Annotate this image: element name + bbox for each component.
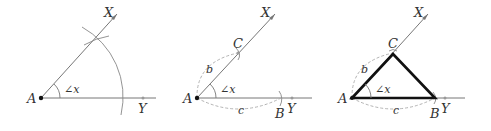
label-x: X [413,5,424,20]
label-angle: ∠x [375,83,391,96]
label-c-vertex: C [388,36,398,51]
point-a [350,96,354,100]
label-b-vertex: B [274,106,285,121]
label-y: Y [441,101,451,116]
panel-step-3: A X Y C B b c ∠x [337,5,465,121]
label-angle: ∠x [220,83,236,96]
label-side-b: b [206,63,213,76]
angle-arc [365,84,371,98]
label-angle: ∠x [64,83,80,96]
label-side-c: c [238,104,244,117]
label-x: X [260,5,271,20]
label-a: A [337,91,347,106]
point-y [444,97,447,100]
label-side-b: b [361,63,368,76]
label-side-c: c [393,104,399,117]
point-a [39,96,43,100]
label-c-vertex: C [233,36,243,51]
compass-arc [82,27,123,115]
point-y [291,97,294,100]
label-y: Y [138,101,148,116]
label-a: A [182,91,192,106]
label-b-vertex: B [429,106,440,121]
triangle-construction-figure: A X Y ∠x A X Y C B b c [0,0,491,131]
point-y [142,97,145,100]
point-a [195,96,199,100]
angle-arc [210,84,216,98]
label-x: X [103,5,114,20]
angle-arc [54,84,60,98]
label-a: A [26,91,36,106]
panel-step-2: A X Y C B b c ∠x [182,5,312,121]
label-y: Y [287,101,297,116]
triangle-abc [352,54,435,98]
ray-ax [197,14,275,98]
panel-step-1: A X Y ∠x [26,5,156,116]
